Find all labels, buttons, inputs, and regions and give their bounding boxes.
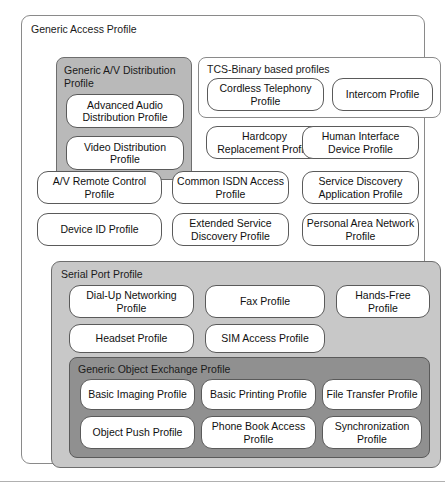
profile-box-common-isdn-access[interactable]: Common ISDN Access Profile: [172, 171, 289, 204]
generic-access-profile-label: Generic Access Profile: [31, 23, 137, 35]
tcs-binary-based-profiles-label: TCS-Binary based profiles: [207, 63, 330, 75]
profile-box-personal-area-network[interactable]: Personal Area Network Profile: [302, 213, 419, 246]
generic-object-exchange-profile-label: Generic Object Exchange Profile: [78, 363, 230, 375]
profile-box-phone-book-access[interactable]: Phone Book Access Profile: [201, 416, 316, 449]
profile-box-video-distribution[interactable]: Video Distribution Profile: [66, 136, 184, 170]
profile-box-service-discovery-application[interactable]: Service Discovery Application Profile: [302, 171, 419, 204]
profile-box-synchronization[interactable]: Synchronization Profile: [322, 416, 422, 449]
generic-av-distribution-profile-label: Generic A/V Distribution Profile: [64, 64, 188, 89]
serial-port-profile-label: Serial Port Profile: [61, 268, 143, 280]
profile-box-extended-service-discovery[interactable]: Extended Service Discovery Profile: [172, 213, 289, 246]
profile-box-dial-up-networking[interactable]: Dial-Up Networking Profile: [69, 285, 194, 318]
profile-box-advanced-audio-distribution[interactable]: Advanced Audio Distribution Profile: [66, 94, 184, 128]
profile-box-fax[interactable]: Fax Profile: [205, 285, 325, 318]
profile-box-intercom[interactable]: Intercom Profile: [332, 78, 433, 111]
profile-box-basic-imaging[interactable]: Basic Imaging Profile: [80, 379, 195, 410]
footer-divider: [0, 481, 445, 482]
profile-box-basic-printing[interactable]: Basic Printing Profile: [201, 379, 316, 410]
profile-box-sim-access[interactable]: SIM Access Profile: [205, 324, 325, 353]
profile-box-hands-free[interactable]: Hands-Free Profile: [336, 285, 430, 318]
profile-box-object-push[interactable]: Object Push Profile: [80, 416, 195, 449]
profile-box-cordless-telephony[interactable]: Cordless Telephony Profile: [207, 78, 324, 111]
generic-access-profile-group: Generic Access Profile Generic A/V Distr…: [21, 15, 425, 464]
profile-box-headset[interactable]: Headset Profile: [69, 324, 194, 353]
profile-box-device-id[interactable]: Device ID Profile: [37, 213, 162, 246]
generic-av-distribution-profile-group: Generic A/V Distribution Profile Advance…: [56, 57, 192, 180]
generic-object-exchange-profile-group: Generic Object Exchange Profile Basic Im…: [69, 357, 430, 458]
tcs-binary-based-profiles-group: TCS-Binary based profiles Cordless Telep…: [198, 57, 441, 118]
profile-box-human-interface-device[interactable]: Human Interface Device Profile: [302, 126, 419, 159]
profile-box-av-remote-control[interactable]: A/V Remote Control Profile: [37, 171, 162, 204]
serial-port-profile-group: Serial Port Profile Dial-Up Networking P…: [51, 261, 441, 468]
profile-box-file-transfer[interactable]: File Transfer Profile: [322, 379, 422, 410]
